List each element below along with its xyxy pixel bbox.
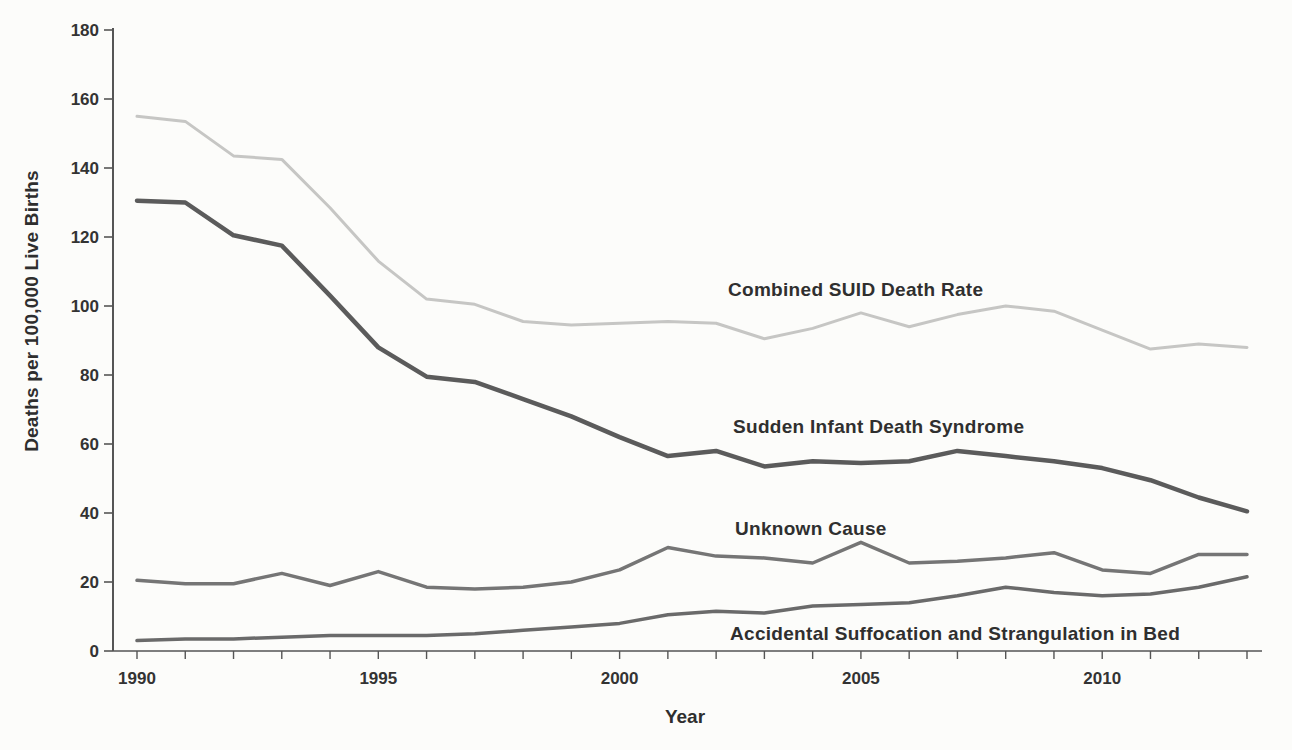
series-line-0 (137, 116, 1247, 349)
x-tick-label: 2000 (601, 669, 639, 688)
series-label-combined-suid-death-rate: Combined SUID Death Rate (728, 279, 983, 301)
series-line-1 (137, 201, 1247, 512)
series-label-accidental-suffocation-strangulation-in-bed: Accidental Suffocation and Strangulation… (730, 623, 1180, 645)
x-tick-label: 1995 (359, 669, 397, 688)
x-tick-label: 2005 (842, 669, 880, 688)
y-tick-label: 80 (80, 366, 99, 385)
chart-canvas: 0204060801001201401601801990199520002005… (0, 0, 1292, 750)
series-label-unknown-cause: Unknown Cause (735, 518, 887, 540)
x-axis-title: Year (560, 706, 810, 728)
y-tick-label: 60 (80, 435, 99, 454)
series-label-sudden-infant-death-syndrome: Sudden Infant Death Syndrome (733, 416, 1024, 438)
y-tick-label: 20 (80, 573, 99, 592)
series-line-2 (137, 542, 1247, 589)
x-tick-label: 1990 (118, 669, 156, 688)
y-tick-label: 0 (90, 642, 99, 661)
y-tick-label: 100 (71, 297, 99, 316)
y-tick-label: 140 (71, 159, 99, 178)
y-tick-label: 120 (71, 228, 99, 247)
y-tick-label: 160 (71, 90, 99, 109)
x-tick-label: 2010 (1083, 669, 1121, 688)
y-tick-label: 40 (80, 504, 99, 523)
y-tick-label: 180 (71, 21, 99, 40)
y-axis-title: Deaths per 100,000 Live Births (21, 161, 43, 461)
